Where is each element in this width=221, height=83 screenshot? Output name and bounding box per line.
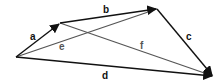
vector-c-arrow <box>157 9 212 75</box>
vector-d-arrow <box>16 57 212 76</box>
label-a: a <box>30 31 36 42</box>
vector-diagram: a b c d e f <box>0 0 221 83</box>
label-f: f <box>140 40 144 51</box>
label-c: c <box>186 31 192 42</box>
label-b: b <box>103 4 109 15</box>
label-d: d <box>102 70 108 81</box>
label-e: e <box>59 41 65 52</box>
vector-a-arrow <box>16 24 59 57</box>
